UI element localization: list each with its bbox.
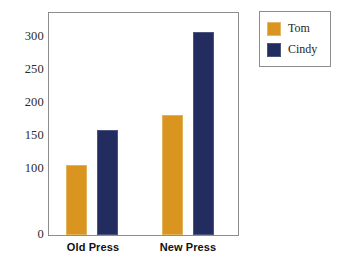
bar-chart: 300 250 200 150 100 0 Old Press New Pres… xyxy=(0,0,340,272)
x-tick-label-new-press: New Press xyxy=(143,241,233,253)
y-tick-label-0: 0 xyxy=(0,228,44,240)
y-tick-label-200: 200 xyxy=(0,96,44,108)
legend: Tom Cindy xyxy=(259,11,331,67)
bar-cindy-old-press xyxy=(97,130,118,235)
legend-item-tom: Tom xyxy=(267,18,330,39)
y-tick-label-100: 100 xyxy=(0,162,44,174)
x-axis: Old Press New Press xyxy=(48,241,239,263)
bar-cindy-new-press xyxy=(193,32,214,235)
legend-swatch-icon-tom xyxy=(267,22,281,36)
bars-layer xyxy=(49,13,238,235)
bar-tom-old-press xyxy=(66,165,87,235)
legend-item-cindy: Cindy xyxy=(267,39,330,60)
y-axis: 300 250 200 150 100 0 xyxy=(0,0,44,272)
y-tick-label-300: 300 xyxy=(0,30,44,42)
x-tick-label-old-press: Old Press xyxy=(48,241,138,253)
legend-label-tom: Tom xyxy=(288,21,310,36)
bar-tom-new-press xyxy=(162,115,183,235)
y-tick-label-250: 250 xyxy=(0,63,44,75)
legend-swatch-icon-cindy xyxy=(267,43,281,57)
y-tick-label-150: 150 xyxy=(0,129,44,141)
legend-label-cindy: Cindy xyxy=(288,42,317,57)
